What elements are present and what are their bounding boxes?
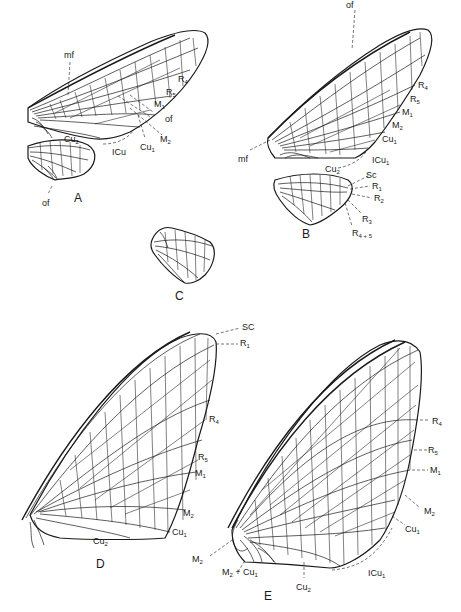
panel-d: SC R1 R4 R5 M1 M2 Cu1 Cu2 D <box>22 322 255 571</box>
label-a-mf: mf <box>64 50 74 60</box>
label-e-cu2: Cu2 <box>296 582 312 593</box>
label-d-cu1: Cu1 <box>172 527 188 538</box>
label-a-of: of <box>165 114 173 124</box>
label-d-r1: R1 <box>240 338 251 349</box>
label-b-r5: R5 <box>410 94 421 105</box>
label-e-m2: M2 <box>424 506 436 517</box>
label-d-r4: R4 <box>209 414 220 425</box>
label-b-sc: Sc <box>366 170 377 180</box>
panel-a-forewing <box>28 30 208 139</box>
label-e-cu1: Cu1 <box>405 524 421 535</box>
panel-label-b: B <box>302 227 310 241</box>
panel-e: R4 R5 M1 M2 Cu1 ICu1 Cu2 M2 M2 + Cu1 E <box>192 340 443 603</box>
panel-label-d: D <box>96 557 105 571</box>
panel-a-hindwing <box>28 140 95 180</box>
label-d-r5: R5 <box>198 452 209 463</box>
panel-c: C <box>151 228 214 304</box>
label-e-icu1: ICu1 <box>368 568 386 579</box>
label-b-r45: R4 + 5 <box>352 228 373 239</box>
label-b-of: of <box>346 0 354 10</box>
label-b-r4: R4 <box>418 80 429 91</box>
panel-label-c: C <box>175 289 184 303</box>
panel-a: mf R4 R5 M1 of M2 Cu1 ICu Cu2 of A <box>28 30 208 208</box>
label-d-m1: M1 <box>195 468 207 479</box>
label-b-cu1: Cu1 <box>382 134 398 145</box>
label-e-r4: R4 <box>432 416 443 427</box>
panel-b-forewing <box>267 29 431 158</box>
panel-b: of R4 R5 M1 M2 Cu1 ICu1 Cu2 mf Sc R1 R2 … <box>238 0 432 241</box>
label-b-r2: R2 <box>374 193 385 204</box>
label-d-sc: SC <box>242 322 255 332</box>
label-e-m2-lower: M2 <box>192 554 204 565</box>
label-a-cu1: Cu1 <box>140 142 156 153</box>
panel-label-a: A <box>74 191 82 205</box>
label-a-icu: ICu <box>112 147 126 157</box>
label-b-m2: M2 <box>392 120 404 131</box>
panel-label-e: E <box>264 589 272 603</box>
label-b-icu1: ICu1 <box>372 155 390 166</box>
label-e-m1: M1 <box>430 465 442 476</box>
label-e-m2-cu1: M2 + Cu1 <box>222 567 259 578</box>
label-d-m2: M2 <box>183 508 195 519</box>
label-a-m2: M2 <box>160 134 172 145</box>
label-b-m1: M1 <box>402 107 414 118</box>
label-a-hind-of: of <box>42 198 50 208</box>
label-b-cu2: Cu2 <box>325 164 341 175</box>
label-e-r5: R5 <box>428 445 439 456</box>
label-b-r3: R3 <box>362 214 373 225</box>
label-b-mf: mf <box>238 154 248 164</box>
panel-b-hindwing <box>274 174 353 225</box>
label-b-r1: R1 <box>372 181 383 192</box>
wing-venation-figure: mf R4 R5 M1 of M2 Cu1 ICu Cu2 of A <box>0 0 461 612</box>
